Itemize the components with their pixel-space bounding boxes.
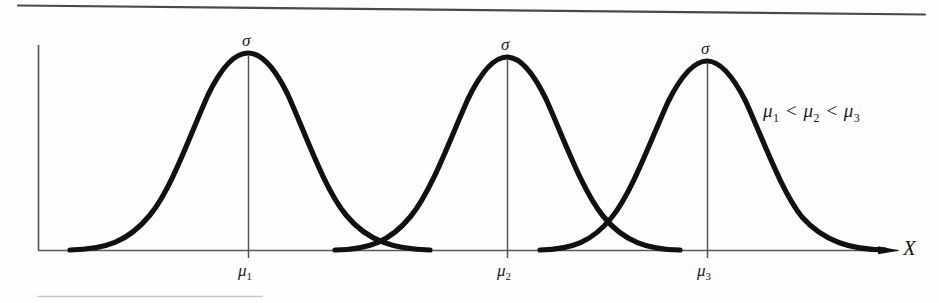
mu-symbol-1: μ <box>238 261 247 280</box>
mean-ordering-annotation: μ1 < μ2 < μ3 <box>763 101 860 124</box>
mean-tick-label-1: μ1 <box>238 262 252 282</box>
x-axis-label: X <box>903 238 916 259</box>
normal-distributions-figure <box>0 0 939 303</box>
mu-subscript-3: 3 <box>706 270 712 282</box>
ordering-relation-2: < <box>825 100 838 121</box>
mu-symbol-3: μ <box>697 261 706 280</box>
mean-tick-label-2: μ2 <box>497 262 511 282</box>
ordering-mu-1: μ <box>763 100 773 121</box>
ordering-mu-3: μ <box>844 100 854 121</box>
mu-symbol-2: μ <box>497 261 506 280</box>
mean-tick-label-3: μ3 <box>697 262 711 282</box>
ordering-relation-1: < <box>785 100 798 121</box>
mu-subscript-2: 2 <box>506 270 512 282</box>
ordering-mu-2: μ <box>803 100 813 121</box>
normal-curve-3 <box>540 61 885 250</box>
top-page-rule <box>18 6 925 15</box>
sigma-label-2: σ <box>501 36 510 53</box>
normal-curve-1 <box>70 53 430 250</box>
ordering-sub-3: 3 <box>854 111 861 125</box>
sigma-label-1: σ <box>242 32 251 49</box>
ordering-sub-2: 2 <box>813 111 820 125</box>
ordering-sub-1: 1 <box>773 111 780 125</box>
sigma-label-3: σ <box>701 40 710 57</box>
mu-subscript-1: 1 <box>247 270 253 282</box>
figure-container: σ σ σ μ1 μ2 μ3 X μ1 < μ2 < μ3 <box>0 0 939 303</box>
